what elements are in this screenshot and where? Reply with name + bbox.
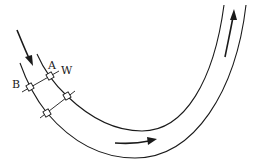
label-b: B [12, 78, 20, 91]
inlet-arrow-icon [17, 30, 29, 58]
bottom-arrow-icon [115, 141, 149, 143]
inlet-arrowhead-icon [25, 55, 33, 66]
outlet-arrowhead-icon [230, 9, 237, 20]
label-a: A [47, 59, 57, 72]
node-b [26, 83, 34, 91]
channel-diagram: A W B [0, 0, 258, 166]
outlet-arrow-icon [225, 17, 233, 57]
bottom-arrowhead-icon [147, 137, 157, 145]
label-w: W [61, 64, 73, 77]
